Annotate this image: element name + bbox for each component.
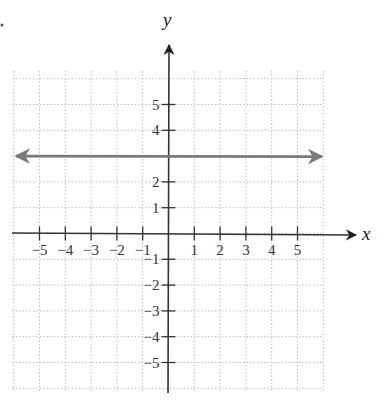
y-tick-label: −2 [144, 277, 160, 293]
x-tick-label: −5 [32, 242, 48, 258]
x-tick-label: 3 [242, 242, 250, 258]
y-tick-label: −5 [144, 355, 160, 371]
y-axis-label: y [161, 9, 172, 30]
x-tick-label: −2 [109, 242, 125, 258]
y-axis [168, 45, 169, 393]
y-tick-label: 5 [152, 97, 160, 113]
coordinate-plane: x y −5−4−3−2−112345−5−4−3−2−11245 [0, 0, 379, 413]
line-y-equals-3 [16, 156, 322, 157]
y-tick-label: −1 [144, 251, 160, 267]
x-axis [12, 233, 356, 235]
x-tick-label: 2 [216, 242, 224, 258]
y-tick-label: 4 [152, 122, 160, 138]
y-tick-label: −3 [144, 303, 160, 319]
x-tick-label: 5 [294, 242, 302, 258]
x-axis-label: x [361, 223, 371, 244]
y-tick-label: 2 [152, 174, 160, 190]
x-tick-label: 1 [191, 242, 199, 258]
x-tick-label: 4 [268, 242, 276, 258]
y-tick-label: 1 [152, 200, 160, 216]
x-tick-label: −4 [57, 242, 73, 258]
x-tick-label: −3 [83, 242, 99, 258]
y-tick-label: −4 [144, 329, 160, 345]
corner-dot [1, 24, 4, 27]
